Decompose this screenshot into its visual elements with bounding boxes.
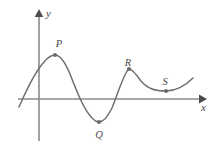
point-marker-Q <box>97 120 101 124</box>
point-marker-P <box>53 53 57 57</box>
point-marker-S <box>164 89 168 93</box>
y-axis-arrowhead <box>35 9 43 17</box>
x-axis-label: x <box>200 101 206 113</box>
function-curve <box>19 55 193 122</box>
x-axis-group <box>18 95 207 104</box>
point-label-S: S <box>162 76 168 87</box>
y-axis-label: y <box>45 7 51 19</box>
y-axis-group <box>35 9 43 141</box>
graph-figure: P Q R S y x <box>0 0 220 148</box>
point-label-Q: Q <box>95 129 103 140</box>
graph-canvas: P Q R S y x <box>0 0 220 148</box>
point-label-R: R <box>124 57 132 68</box>
point-label-P: P <box>55 38 63 49</box>
